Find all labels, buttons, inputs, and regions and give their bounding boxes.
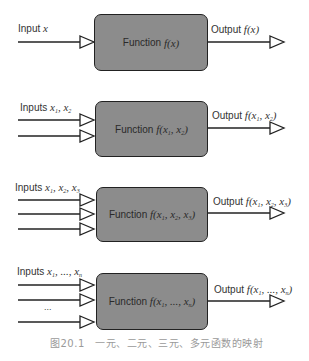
arrowhead-icon xyxy=(80,279,94,291)
input-text: Inputs xyxy=(17,266,44,277)
output-math: f(x1, x2, x3) xyxy=(246,195,291,207)
function-box-4: Function f(x1, ..., xn) xyxy=(96,273,208,330)
arrowhead-icon xyxy=(80,316,94,328)
figure-caption: 图20.1 一元、二元、三元、多元函数的映射 xyxy=(50,335,265,350)
arrowhead-icon xyxy=(80,194,94,206)
output-label-3: Output f(x1, x2, x3) xyxy=(213,195,291,211)
arrowhead-icon xyxy=(80,36,94,48)
ellipsis: ... xyxy=(44,302,52,312)
function-box-3: Function f(x1, x2, x3) xyxy=(96,187,208,242)
output-label-4: Output f(x1, ..., xn) xyxy=(214,283,292,299)
arrowhead-icon xyxy=(80,130,94,142)
function-text: Function xyxy=(109,209,147,220)
function-math: f(x1, x2, x3) xyxy=(150,208,195,221)
function-math: f(x) xyxy=(164,37,179,49)
output-math: f(x) xyxy=(244,23,259,35)
output-text: Output xyxy=(214,284,244,295)
arrowhead-icon xyxy=(80,114,94,126)
input-label-4: Inputs x1, ..., xn xyxy=(17,265,82,281)
output-math: f(x1, ..., xn) xyxy=(247,283,292,295)
function-text: Function xyxy=(115,124,153,135)
output-text: Output xyxy=(211,24,241,35)
arrowhead-icon xyxy=(80,208,94,220)
function-text: Function xyxy=(123,37,161,48)
arrowhead-icon xyxy=(270,36,284,48)
output-label-1: Output f(x) xyxy=(211,23,259,36)
input-text: Inputs xyxy=(20,102,47,113)
arrowhead-icon xyxy=(80,223,94,235)
input-text: Inputs xyxy=(15,182,42,193)
input-label-2: Inputs x1, x2 xyxy=(20,101,71,117)
input-vars: x1, x2, x3 xyxy=(45,181,80,193)
output-math: f(x1, x2) xyxy=(245,109,277,121)
function-box-2: Function f(x1, x2) xyxy=(95,101,208,157)
input-var: x xyxy=(43,22,48,34)
function-math: f(x1, x2) xyxy=(156,123,188,136)
function-math: f(x1, ..., xn) xyxy=(150,295,195,308)
output-label-2: Output f(x1, x2) xyxy=(212,109,277,125)
output-text: Output xyxy=(212,110,242,121)
arrowhead-icon xyxy=(80,294,94,306)
input-label-3: Inputs x1, x2, x3 xyxy=(15,181,80,197)
input-text: Input xyxy=(18,23,40,34)
function-box-1: Function f(x) xyxy=(94,14,208,71)
input-vars: x1, x2 xyxy=(50,101,71,113)
output-text: Output xyxy=(213,196,243,207)
input-label-1: Input x xyxy=(18,22,48,35)
input-vars: x1, ..., xn xyxy=(47,265,82,277)
function-text: Function xyxy=(109,296,147,307)
